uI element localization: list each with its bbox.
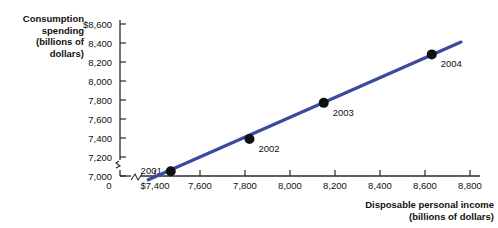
consumption-function-line [148, 42, 461, 180]
data-point-marker [166, 166, 176, 176]
y-axis-break-icon [116, 161, 120, 168]
data-point-marker [245, 134, 255, 144]
plot-area [0, 0, 498, 228]
data-point-marker [427, 49, 437, 59]
consumption-function-chart: Consumption spending (billions of dollar… [0, 0, 498, 228]
data-point-marker [319, 98, 329, 108]
x-axis-break-icon [131, 174, 142, 180]
